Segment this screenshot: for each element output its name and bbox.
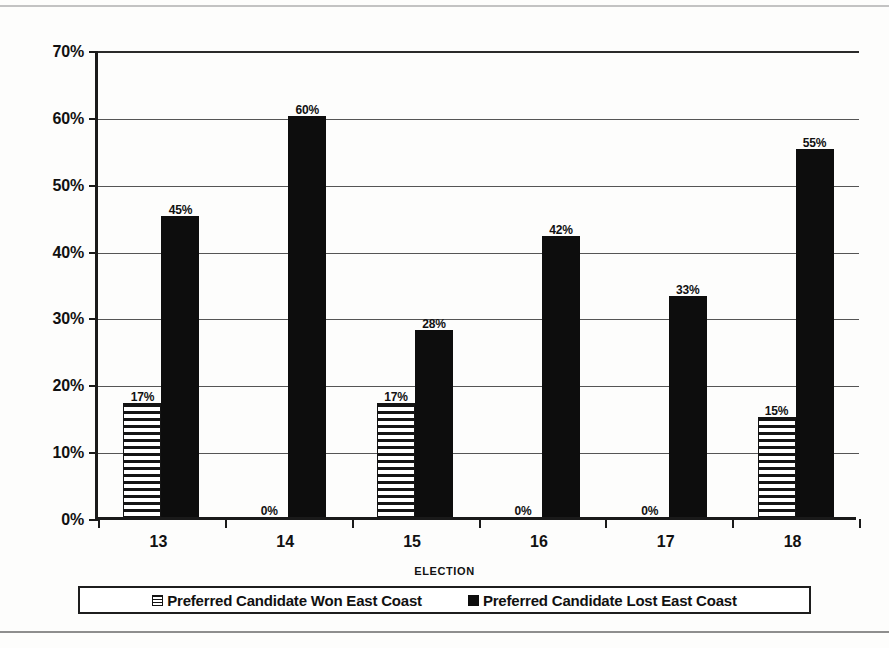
bar[interactable] [669, 296, 707, 517]
chart-page: 0%10%20%30%40%50%60%70%17%45%0%60%17%28%… [0, 0, 889, 648]
gridline [98, 386, 859, 387]
y-axis-tick [89, 185, 98, 187]
bar[interactable] [542, 236, 580, 517]
plot-area: 0%10%20%30%40%50%60%70%17%45%0%60%17%28%… [95, 52, 856, 520]
bar-chart: 0%10%20%30%40%50%60%70%17%45%0%60%17%28%… [0, 0, 889, 648]
y-axis-tick [89, 452, 98, 454]
legend-label-lost: Preferred Candidate Lost East Coast [483, 592, 737, 609]
x-axis-tick [98, 519, 100, 528]
bar[interactable] [123, 403, 161, 517]
y-axis-tick [89, 519, 98, 521]
x-axis-label: 13 [150, 533, 168, 551]
y-axis-tick [89, 385, 98, 387]
legend-label-won: Preferred Candidate Won East Coast [167, 592, 422, 609]
x-axis-label: 18 [784, 533, 802, 551]
x-axis-label: 16 [530, 533, 548, 551]
bar[interactable] [758, 417, 796, 517]
y-axis-label: 40% [53, 244, 84, 262]
bar-value-label: 15% [765, 404, 788, 418]
bar-value-label: 60% [296, 103, 319, 117]
bar[interactable] [377, 403, 415, 517]
gridline [98, 51, 859, 53]
bar[interactable] [415, 330, 453, 517]
bar-value-label: 17% [131, 390, 154, 404]
x-axis-tick [352, 519, 354, 528]
legend-entry-lost[interactable]: Preferred Candidate Lost East Coast [468, 592, 737, 609]
chart-legend: Preferred Candidate Won East Coast Prefe… [78, 586, 811, 614]
bar-value-label: 17% [384, 390, 407, 404]
x-axis-tick [859, 519, 861, 528]
y-axis-label: 30% [53, 310, 84, 328]
x-axis-title: ELECTION [0, 565, 889, 577]
bar-value-label: 28% [422, 317, 445, 331]
gridline [98, 253, 859, 254]
gridline [98, 319, 859, 320]
bar-value-label: 0% [261, 504, 278, 518]
y-axis-label: 60% [53, 110, 84, 128]
bar[interactable] [796, 149, 834, 517]
x-axis-label: 15 [403, 533, 421, 551]
y-axis-tick [89, 252, 98, 254]
x-axis-tick [225, 519, 227, 528]
y-axis-label: 70% [53, 43, 84, 61]
bar[interactable] [161, 216, 199, 517]
x-axis-label: 17 [657, 533, 675, 551]
solid-square-icon [468, 595, 479, 606]
x-axis-label: 14 [276, 533, 294, 551]
bar-value-label: 55% [803, 136, 826, 150]
gridline [98, 453, 859, 454]
y-axis-tick [89, 118, 98, 120]
bar[interactable] [288, 116, 326, 517]
y-axis-label: 20% [53, 377, 84, 395]
y-axis-label: 0% [61, 511, 84, 529]
y-axis-tick [89, 318, 98, 320]
bar-value-label: 0% [641, 504, 658, 518]
gridline [98, 186, 859, 187]
x-axis-tick [479, 519, 481, 528]
x-axis-tick [605, 519, 607, 528]
bar-value-label: 33% [676, 283, 699, 297]
y-axis-tick [89, 51, 98, 53]
hatch-square-icon [152, 595, 163, 606]
y-axis-label: 50% [53, 177, 84, 195]
bar-value-label: 45% [169, 203, 192, 217]
gridline [98, 119, 859, 120]
bar-value-label: 42% [549, 223, 572, 237]
bar-value-label: 0% [514, 504, 531, 518]
y-axis-label: 10% [53, 444, 84, 462]
legend-entry-won[interactable]: Preferred Candidate Won East Coast [152, 592, 422, 609]
x-axis-tick [732, 519, 734, 528]
